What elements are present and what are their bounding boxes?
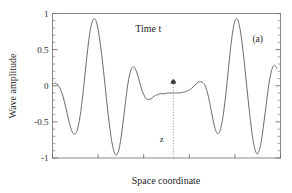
y-tick-label: -1 xyxy=(41,153,49,163)
time-annotation: Time t xyxy=(135,23,161,34)
figure-root: -1-0.500.51 Time t (a) z Wave amplitude … xyxy=(0,0,292,193)
y-tick-label: 0 xyxy=(44,81,49,91)
y-tick-label: -0.5 xyxy=(34,117,49,127)
y-tick-label: 1 xyxy=(44,9,49,19)
x-axis-title: Space coordinate xyxy=(132,175,201,186)
y-tick-label: 0.5 xyxy=(37,45,49,55)
z-annotation: z xyxy=(160,134,164,144)
wave-amplitude-chart: -1-0.500.51 Time t (a) z Wave amplitude … xyxy=(0,0,292,193)
y-axis-title: Wave amplitude xyxy=(7,53,18,119)
panel-label: (a) xyxy=(252,34,263,45)
